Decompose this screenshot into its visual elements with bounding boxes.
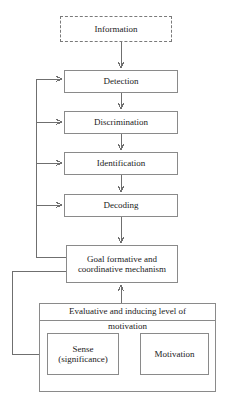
node-sense-label-line1: Sense <box>72 344 93 354</box>
node-sense-label-line2: (significance) <box>58 354 107 364</box>
node-goal-label-line2: coordinative mechanism <box>78 264 166 274</box>
flowchart-diagram: Information Detection Discrimination Ide… <box>0 0 236 412</box>
node-evaluative-label-line2: motivation <box>40 321 215 331</box>
node-evaluative-label-line1: Evaluative and inducing level of <box>40 304 215 317</box>
node-goal-label: Goal formative and coordinative mechanis… <box>76 254 168 274</box>
node-detection-label: Detection <box>102 76 141 86</box>
node-discrimination: Discrimination <box>64 111 178 134</box>
node-detection: Detection <box>64 70 178 93</box>
node-goal-formative-mechanism: Goal formative and coordinative mechanis… <box>66 245 178 283</box>
node-motivation-label: Motivation <box>153 349 197 359</box>
node-goal-label-line1: Goal formative and <box>87 254 157 264</box>
node-information: Information <box>60 16 172 42</box>
node-sense-significance: Sense (significance) <box>47 333 119 375</box>
node-identification: Identification <box>64 152 178 175</box>
node-identification-label: Identification <box>95 158 147 168</box>
node-discrimination-label: Discrimination <box>92 117 150 127</box>
node-sense-label: Sense (significance) <box>56 344 109 364</box>
node-motivation: Motivation <box>140 333 209 375</box>
node-decoding-label: Decoding <box>102 200 141 210</box>
node-information-label: Information <box>93 24 140 34</box>
edge-goal-feedback-bus <box>36 79 66 257</box>
node-decoding: Decoding <box>64 194 178 217</box>
